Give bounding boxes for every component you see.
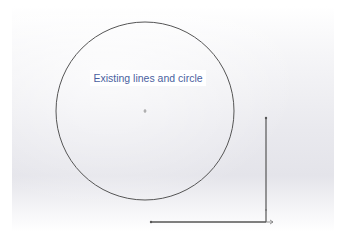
annotation-label: Existing lines and circle (90, 70, 206, 86)
vertical-line-midpoint[interactable] (265, 209, 267, 211)
horizontal-line-endpoint[interactable] (150, 221, 152, 223)
origin-arrow-icon (266, 220, 273, 224)
vertical-line-endpoint[interactable] (265, 117, 267, 119)
sketch-geometry (0, 0, 354, 245)
